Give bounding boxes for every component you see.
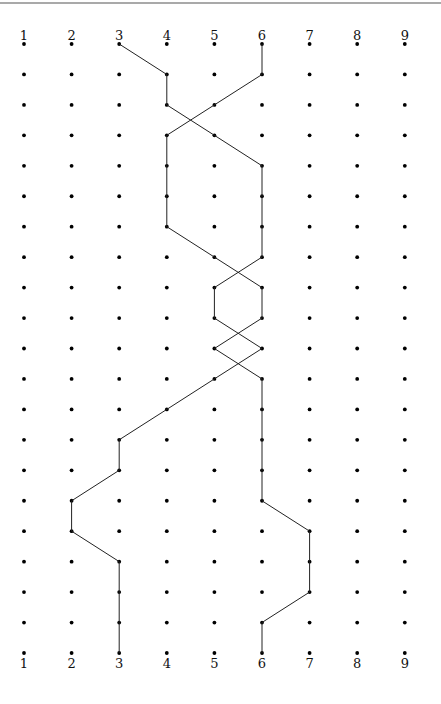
grid-dot-r18-c9 — [403, 590, 407, 594]
grid-dot-r5-c5 — [213, 194, 217, 198]
grid-dot-r5-c3 — [117, 194, 121, 198]
grid-dot-r16-c4 — [165, 529, 169, 533]
grid-dot-r0-c9 — [403, 42, 407, 46]
grid-dot-r12-c1 — [22, 408, 26, 412]
grid-dot-r0-c7 — [308, 42, 312, 46]
grid-dot-r4-c1 — [22, 164, 26, 168]
grid-dot-r8-c8 — [355, 286, 359, 290]
grid-dot-r11-c8 — [355, 377, 359, 381]
grid-dot-r5-c1 — [22, 194, 26, 198]
grid-dot-r17-c4 — [165, 560, 169, 564]
grid-dot-r1-c2 — [70, 73, 74, 77]
grid-dot-r16-c8 — [355, 529, 359, 533]
grid-dot-r2-c9 — [403, 103, 407, 107]
grid-dot-r18-c4 — [165, 590, 169, 594]
grid-dot-r18-c6 — [260, 590, 264, 594]
grid-dot-r6-c9 — [403, 225, 407, 229]
grid-dot-r10-c4 — [165, 347, 169, 351]
grid-dot-r18-c2 — [70, 590, 74, 594]
grid-dot-r0-c2 — [70, 42, 74, 46]
grid-dot-r9-c2 — [70, 316, 74, 320]
grid-dot-r17-c6 — [260, 560, 264, 564]
grid-dot-r17-c5 — [213, 560, 217, 564]
grid-dot-r1-c3 — [117, 73, 121, 77]
bottom-label-2: 2 — [67, 656, 75, 671]
grid-dot-r3-c2 — [70, 133, 74, 137]
grid-dot-r2-c3 — [117, 103, 121, 107]
top-label-8: 8 — [353, 28, 361, 43]
grid-dot-r3-c1 — [22, 133, 26, 137]
grid-dot-r12-c2 — [70, 408, 74, 412]
grid-dot-r2-c8 — [355, 103, 359, 107]
grid-dot-r7-c3 — [117, 255, 121, 259]
grid-dot-r10-c1 — [22, 347, 26, 351]
grid-dot-r1-c8 — [355, 73, 359, 77]
grid-dot-r13-c7 — [308, 438, 312, 442]
grid-dot-r1-c5 — [213, 73, 217, 77]
grid-dot-r13-c9 — [403, 438, 407, 442]
grid-dot-r3-c7 — [308, 133, 312, 137]
grid-dot-r14-c8 — [355, 468, 359, 472]
grid-dot-r7-c8 — [355, 255, 359, 259]
grid-dot-r19-c4 — [165, 621, 169, 625]
grid-dot-r15-c5 — [213, 499, 217, 503]
grid-dot-r6-c5 — [213, 225, 217, 229]
grid-dot-r19-c7 — [308, 621, 312, 625]
grid-dot-r20-c7 — [308, 651, 312, 655]
grid-dot-r11-c4 — [165, 377, 169, 381]
grid-dot-r15-c7 — [308, 499, 312, 503]
grid-dot-r12-c5 — [213, 408, 217, 412]
grid-dot-r19-c9 — [403, 621, 407, 625]
grid-dot-r20-c2 — [70, 651, 74, 655]
bottom-label-4: 4 — [163, 656, 171, 671]
grid-dot-r4-c7 — [308, 164, 312, 168]
grid-dot-r0-c5 — [213, 42, 217, 46]
top-label-5: 5 — [210, 28, 218, 43]
bottom-label-1: 1 — [20, 656, 28, 671]
grid-dot-r10-c9 — [403, 347, 407, 351]
top-label-1: 1 — [20, 28, 28, 43]
grid-dot-r3-c9 — [403, 133, 407, 137]
grid-dot-r20-c4 — [165, 651, 169, 655]
grid-dot-r0-c1 — [22, 42, 26, 46]
bottom-label-5: 5 — [210, 656, 218, 671]
grid-dot-r19-c1 — [22, 621, 26, 625]
grid-dot-r20-c8 — [355, 651, 359, 655]
grid-dot-r5-c2 — [70, 194, 74, 198]
grid-dot-r7-c1 — [22, 255, 26, 259]
grid-dot-r1-c1 — [22, 73, 26, 77]
grid-dot-r11-c9 — [403, 377, 407, 381]
grid-dot-r8-c1 — [22, 286, 26, 290]
grid-dot-r6-c1 — [22, 225, 26, 229]
grid-dot-r17-c1 — [22, 560, 26, 564]
grid-dot-r16-c5 — [213, 529, 217, 533]
grid-dot-r17-c2 — [70, 560, 74, 564]
grid-dot-r13-c2 — [70, 438, 74, 442]
grid-dot-r0-c8 — [355, 42, 359, 46]
grid-dot-r7-c2 — [70, 255, 74, 259]
grid-dot-r12-c7 — [308, 408, 312, 412]
grid-dot-r13-c8 — [355, 438, 359, 442]
top-label-2: 2 — [67, 28, 75, 43]
grid-dot-r4-c9 — [403, 164, 407, 168]
grid-dot-r20-c5 — [213, 651, 217, 655]
bottom-label-8: 8 — [353, 656, 361, 671]
grid-dot-r13-c5 — [213, 438, 217, 442]
grid-dot-r16-c9 — [403, 529, 407, 533]
grid-dot-r4-c2 — [70, 164, 74, 168]
grid-dot-r6-c3 — [117, 225, 121, 229]
grid-dot-r12-c3 — [117, 408, 121, 412]
grid-dot-r12-c8 — [355, 408, 359, 412]
grid-dot-r6-c7 — [308, 225, 312, 229]
grid-dot-r19-c2 — [70, 621, 74, 625]
grid-dot-r6-c8 — [355, 225, 359, 229]
grid-dot-r10-c3 — [117, 347, 121, 351]
grid-dot-r16-c6 — [260, 529, 264, 533]
grid-dot-r7-c4 — [165, 255, 169, 259]
grid-dot-r10-c7 — [308, 347, 312, 351]
bottom-label-6: 6 — [258, 656, 266, 671]
path-from-6 — [167, 44, 310, 653]
grid-dot-r2-c6 — [260, 103, 264, 107]
grid-dot-r15-c1 — [22, 499, 26, 503]
grid-dot-r2-c1 — [22, 103, 26, 107]
